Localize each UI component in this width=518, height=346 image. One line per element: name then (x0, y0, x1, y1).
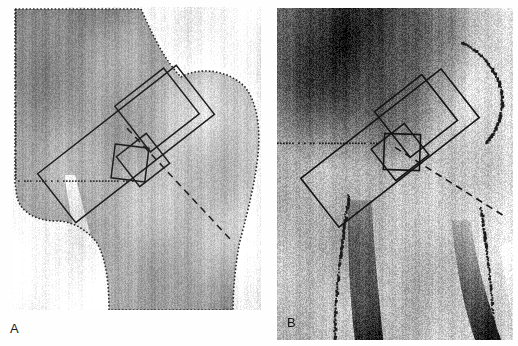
panel-b (277, 8, 513, 340)
panel-b-label: B (287, 316, 296, 329)
panel-a (13, 7, 261, 310)
panel-a-label: A (10, 322, 19, 335)
radiograph-figure: A B (0, 0, 518, 346)
panel-b-image (277, 8, 513, 340)
panel-a-image (13, 7, 261, 310)
